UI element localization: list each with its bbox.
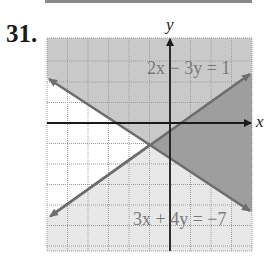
- inequality-graph: y x 2x − 3y = 1 3x + 4y = −7: [0, 0, 266, 261]
- equation-label-2: 3x + 4y = −7: [133, 209, 226, 229]
- y-axis-label: y: [164, 15, 174, 34]
- x-axis-label: x: [255, 112, 264, 131]
- equation-label-1: 2x − 3y = 1: [147, 58, 230, 78]
